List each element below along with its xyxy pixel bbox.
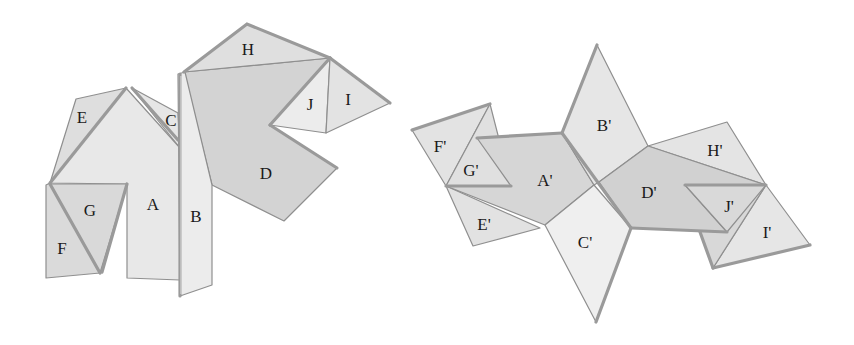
- label-g-prime: G': [463, 161, 478, 180]
- label-a-prime: A': [537, 171, 552, 190]
- label-f: F: [57, 239, 66, 258]
- origami-diagram: A B C D E F G H I J: [0, 0, 854, 345]
- label-e-prime: E': [477, 215, 490, 234]
- label-a: A: [147, 195, 160, 214]
- label-j-prime: J': [724, 197, 734, 216]
- label-h-prime: H': [707, 141, 722, 160]
- label-d-prime: D': [641, 183, 656, 202]
- label-c-prime: C': [578, 233, 592, 252]
- label-g: G: [84, 201, 96, 220]
- label-i-prime: I': [763, 223, 772, 242]
- label-c: C: [165, 111, 176, 130]
- label-f-prime: F': [434, 137, 447, 156]
- unfolded-net: A' B' C' D' E' F' G' H' I' J': [412, 45, 810, 322]
- folded-model: A B C D E F G H I J: [46, 24, 390, 296]
- label-b: B: [190, 207, 201, 226]
- label-i: I: [345, 90, 351, 109]
- label-j: J: [307, 95, 314, 114]
- label-e: E: [77, 108, 87, 127]
- label-d: D: [260, 164, 272, 183]
- label-b-prime: B': [597, 116, 611, 135]
- label-h: H: [242, 40, 254, 59]
